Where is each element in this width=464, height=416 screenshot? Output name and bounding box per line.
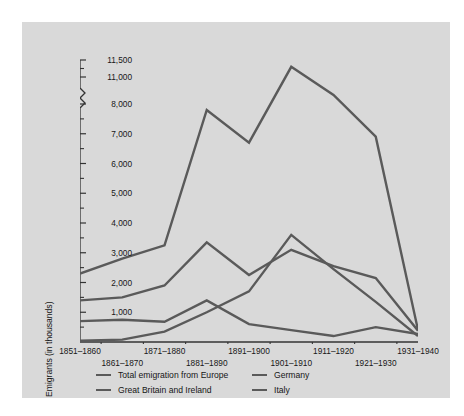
chart-legend: Total emigration from Europe Germany Gre… xyxy=(96,370,426,400)
y-tick-label: 11,000 xyxy=(107,72,132,82)
y-tick-label: 4,000 xyxy=(111,218,132,228)
legend-item-great-britain-and-ireland: Great Britain and Ireland xyxy=(96,385,252,395)
legend-row: Total emigration from Europe Germany xyxy=(96,370,426,380)
legend-label: Great Britain and Ireland xyxy=(118,385,212,395)
y-tick-label: 7,000 xyxy=(111,129,132,139)
y-tick-label: 11,500 xyxy=(107,55,132,65)
y-axis-tick-labels: 1,0002,0003,0004,0005,0006,0007,0008,000… xyxy=(80,42,132,342)
legend-item-total-emigration-from-europe: Total emigration from Europe xyxy=(96,370,252,380)
y-tick-label: 6,000 xyxy=(111,159,132,169)
y-tick-label: 5,000 xyxy=(111,188,132,198)
y-tick-label: 2,000 xyxy=(111,278,132,288)
legend-label: Germany xyxy=(274,370,309,380)
plot-area: 1,0002,0003,0004,0005,0006,0007,0008,000… xyxy=(80,42,418,342)
x-tick-label: 1871–1880 xyxy=(144,346,186,356)
x-tick-label: 1891–1900 xyxy=(228,346,270,356)
x-tick-label: 1881–1890 xyxy=(186,358,228,368)
legend-line-swatch-icon xyxy=(252,389,267,392)
legend-line-swatch-icon xyxy=(96,389,111,392)
x-tick-label: 1851–1860 xyxy=(59,346,101,356)
chart-panel: Emigrants (in thousands) 1,0002,0003,000… xyxy=(22,22,450,398)
x-tick-label: 1921–1930 xyxy=(355,358,397,368)
x-tick-label: 1901–1910 xyxy=(270,358,312,368)
legend-line-swatch-icon xyxy=(252,374,267,377)
legend-line-swatch-icon xyxy=(96,374,111,377)
x-tick-label: 1861–1870 xyxy=(101,358,143,368)
legend-label: Total emigration from Europe xyxy=(118,370,228,380)
x-tick-label: 1931–1940 xyxy=(397,346,439,356)
legend-item-italy: Italy xyxy=(252,385,290,395)
legend-row: Great Britain and Ireland Italy xyxy=(96,385,426,395)
y-axis-label: Emigrants (in thousands) xyxy=(44,277,54,397)
legend-label: Italy xyxy=(274,385,290,395)
y-tick-label: 8,000 xyxy=(111,99,132,109)
legend-item-germany: Germany xyxy=(252,370,309,380)
y-tick-label: 1,000 xyxy=(111,307,132,317)
x-tick-label: 1911–1920 xyxy=(313,346,354,356)
y-tick-label: 3,000 xyxy=(111,248,132,258)
